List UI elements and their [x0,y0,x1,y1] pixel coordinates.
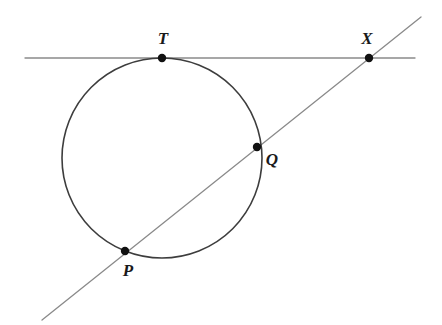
figure-canvas: T X Q P [0,0,442,325]
point-dot-q [253,143,261,151]
point-label-p: P [122,261,134,280]
figure-background [0,0,442,325]
point-dot-p [121,247,129,255]
geometry-figure: T X Q P [0,0,442,325]
point-label-q: Q [266,150,278,169]
point-label-t: T [158,29,169,48]
point-label-x: X [360,29,373,48]
point-dot-x [365,54,373,62]
point-dot-t [158,54,166,62]
